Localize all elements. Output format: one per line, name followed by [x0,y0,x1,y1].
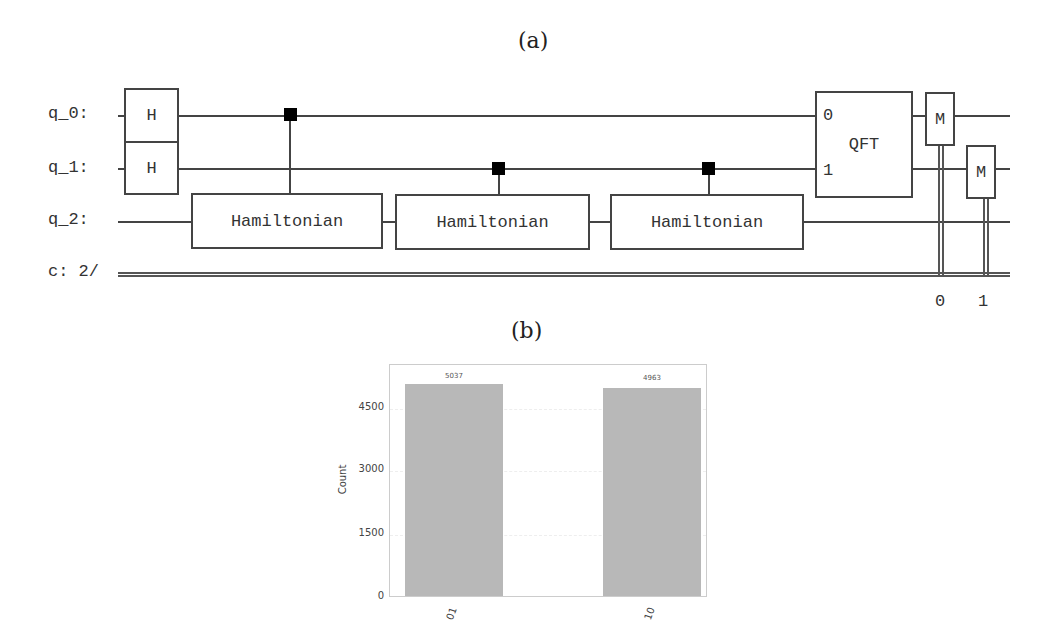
qubit-label-q2: q_2: [48,210,89,229]
histogram-chart: 5037 4963 [389,364,707,597]
ytick-3000: 3000 [355,463,384,474]
ytick-1500: 1500 [355,527,384,538]
xtick-01: 01 [444,606,459,622]
measure-gate-q1: M [966,145,996,199]
y-axis-label: Count [337,465,348,495]
qubit-label-q1: q_1: [48,158,89,177]
measure-gate-q0: M [925,92,955,146]
classical-register-label: c: 2/ [48,262,99,281]
bar-01 [405,384,503,596]
ytick-0: 0 [366,590,384,601]
ytick-4500: 4500 [355,401,384,412]
control-dot-q1-a [492,162,505,175]
h-gate-q0: H [124,88,179,143]
hamiltonian-gate-3: Hamiltonian [610,194,804,250]
qft-label: QFT [849,135,880,154]
classical-wire [118,272,1010,277]
measure-line-1 [983,198,989,275]
qubit-label-q0: q_0: [48,104,89,123]
h-gate-q1: H [124,141,179,195]
qft-input-1: 1 [823,161,833,180]
control-dot-q1-b [702,162,715,175]
bar-value-10: 4963 [603,374,701,382]
panel-b-caption: (b) [511,318,542,343]
qft-gate: QFT 0 1 [815,91,913,198]
cbit-label-1: 1 [978,292,988,311]
measure-line-0 [938,145,944,275]
control-line-1 [289,116,291,194]
bar-value-01: 5037 [405,372,503,380]
qft-input-0: 0 [823,106,833,125]
xtick-10: 10 [642,606,657,622]
panel-a-caption: (a) [518,28,548,53]
bar-10 [603,388,701,596]
hamiltonian-gate-2: Hamiltonian [395,194,590,250]
control-dot-q0 [284,108,297,121]
cbit-label-0: 0 [935,292,945,311]
hamiltonian-gate-1: Hamiltonian [191,193,383,249]
